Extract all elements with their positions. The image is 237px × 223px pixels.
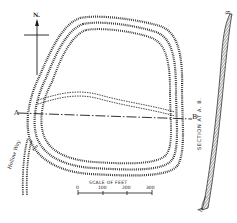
section-profile (202, 14, 232, 210)
scale-bar (78, 190, 152, 195)
interior-track (38, 92, 175, 116)
inner-rampart (41, 29, 171, 163)
section-profile-start: A (196, 208, 203, 212)
hollow-way-road (23, 138, 38, 195)
scale-tick-300: 300 (146, 185, 155, 190)
section-start-label: A (14, 109, 19, 117)
north-arrow-icon (24, 19, 49, 75)
section-title: SECTION AT A. B. (196, 98, 202, 150)
earthwork-plan: N. A B Hollow Way SCALE OF FEET 0 100 20… (0, 0, 237, 223)
middle-rampart (35, 23, 177, 170)
scale-tick-100: 100 (98, 185, 107, 190)
north-label: N. (33, 11, 40, 18)
section-profile-end: B (224, 11, 231, 15)
scale-tick-200: 200 (122, 185, 131, 190)
scale-tick-0: 0 (76, 185, 79, 190)
